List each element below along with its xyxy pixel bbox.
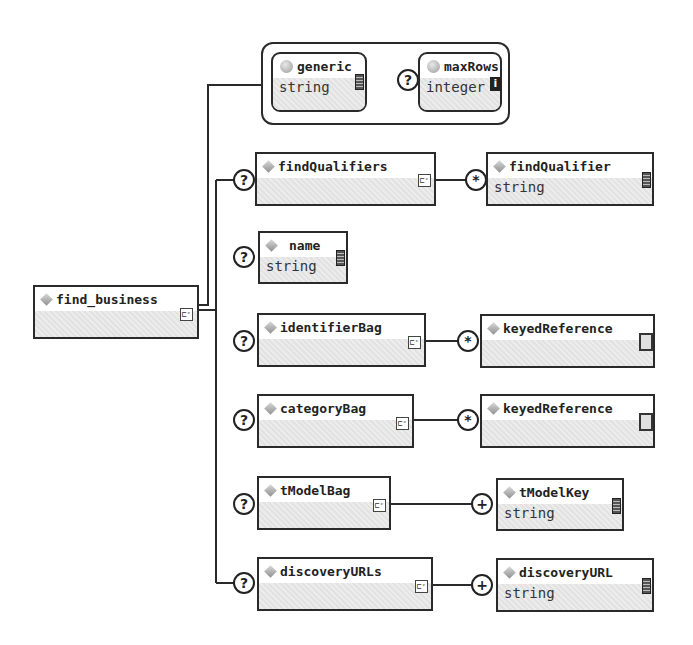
attribute-name: maxRows: [444, 59, 499, 74]
text-content-icon: [612, 498, 621, 514]
element-type: string: [504, 585, 555, 601]
attributes-group: generic string ? maxRows integer i: [261, 42, 510, 125]
element-name: categoryBag: [280, 401, 366, 416]
text-content-icon: [642, 172, 651, 188]
schema-diagram: find_business ⊏ᶜ generic string ? maxRow…: [0, 0, 693, 645]
element-diamond-icon: [265, 239, 278, 252]
element-tModelKey[interactable]: tModelKey string: [496, 478, 624, 531]
element-diamond-icon: [503, 566, 516, 579]
empty-content-icon: [639, 413, 653, 431]
optional-occurrence-icon: ?: [233, 493, 255, 515]
element-diamond-icon: [264, 565, 277, 578]
element-keyedReference[interactable]: keyedReference: [480, 394, 655, 448]
empty-content-icon: [639, 333, 653, 351]
element-name[interactable]: name string: [258, 231, 348, 284]
attribute-type: string: [279, 79, 330, 95]
element-diamond-icon: [264, 321, 277, 334]
optional-occurrence-icon: ?: [233, 409, 255, 431]
sequence-icon[interactable]: ⊏ᶜ: [408, 336, 421, 349]
one-or-more-occurrence-icon: +: [471, 493, 493, 515]
element-type: string: [494, 179, 545, 195]
element-name: discoveryURL: [519, 565, 613, 580]
element-diamond-icon: [264, 402, 277, 415]
element-keyedReference[interactable]: keyedReference: [480, 314, 655, 368]
attribute-circle-icon: [427, 60, 440, 73]
element-findQualifier[interactable]: findQualifier string: [486, 152, 654, 206]
element-name: find_business: [56, 292, 158, 307]
attribute-circle-icon: [280, 60, 293, 73]
optional-occurrence-icon: ?: [233, 572, 255, 594]
element-name: keyedReference: [503, 401, 613, 416]
element-name: identifierBag: [280, 320, 382, 335]
optional-occurrence-icon: ?: [397, 69, 419, 91]
optional-occurrence-icon: ?: [233, 330, 255, 352]
element-name: discoveryURLs: [280, 564, 382, 579]
element-type: string: [266, 258, 317, 274]
element-discoveryURL[interactable]: discoveryURL string: [496, 558, 654, 612]
zero-or-more-occurrence-icon: *: [465, 169, 487, 191]
sequence-icon[interactable]: ⊏ᶜ: [373, 499, 386, 512]
element-identifierBag[interactable]: identifierBag ⊏ᶜ: [257, 313, 426, 367]
element-diamond-icon: [262, 160, 275, 173]
root-element-find-business[interactable]: find_business ⊏ᶜ: [33, 285, 199, 339]
text-content-icon: [642, 578, 651, 594]
zero-or-more-occurrence-icon: *: [457, 330, 479, 352]
element-diamond-icon: [503, 486, 516, 499]
element-categoryBag[interactable]: categoryBag ⊏ᶜ: [257, 394, 414, 448]
element-tModelBag[interactable]: tModelBag ⊏ᶜ: [257, 476, 391, 530]
element-discoveryURLs[interactable]: discoveryURLs ⊏ᶜ: [257, 557, 433, 611]
info-icon: i: [490, 77, 501, 91]
zero-or-more-occurrence-icon: *: [457, 409, 479, 431]
element-name: findQualifier: [509, 159, 611, 174]
attribute-name: generic: [297, 59, 352, 74]
sequence-icon[interactable]: ⊏ᶜ: [418, 174, 431, 187]
attribute-maxRows[interactable]: maxRows integer i: [418, 52, 502, 112]
attribute-type: integer: [426, 79, 485, 95]
element-diamond-icon: [264, 484, 277, 497]
optional-occurrence-icon: ?: [233, 246, 255, 268]
optional-occurrence-icon: ?: [233, 169, 255, 191]
attribute-generic[interactable]: generic string: [271, 52, 367, 112]
sequence-icon[interactable]: ⊏ᶜ: [396, 417, 409, 430]
element-name: keyedReference: [503, 321, 613, 336]
one-or-more-occurrence-icon: +: [471, 574, 493, 596]
element-name-label: name: [289, 238, 320, 253]
element-name: findQualifiers: [278, 159, 388, 174]
element-name: tModelBag: [280, 483, 350, 498]
element-diamond-icon: [493, 160, 506, 173]
element-diamond-icon: [487, 322, 500, 335]
element-type: string: [504, 505, 555, 521]
element-findQualifiers[interactable]: findQualifiers ⊏ᶜ: [255, 152, 436, 206]
element-diamond-icon: [40, 293, 53, 306]
sequence-icon[interactable]: ⊏ᶜ: [180, 308, 193, 321]
element-name: tModelKey: [519, 485, 589, 500]
element-diamond-icon: [487, 402, 500, 415]
text-content-icon: [336, 250, 345, 266]
text-content-icon: [355, 74, 364, 90]
sequence-icon[interactable]: ⊏ᶜ: [415, 580, 428, 593]
